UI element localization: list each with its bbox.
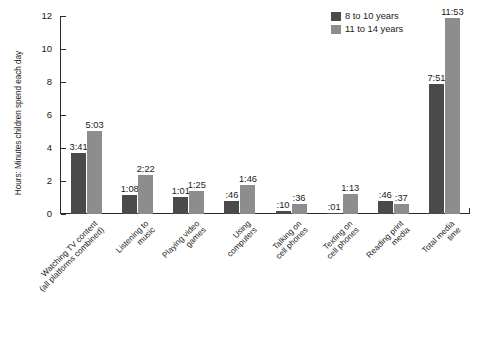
bar[interactable] — [173, 197, 188, 214]
bar[interactable] — [343, 194, 358, 214]
y-axis-tick-label: 2 — [26, 175, 52, 186]
bar[interactable] — [87, 131, 102, 214]
bar-value-label: 5:03 — [78, 120, 112, 130]
y-axis-tick-label: 8 — [26, 76, 52, 87]
bar-value-label: 1:13 — [333, 183, 367, 193]
bar-value-label: 11:53 — [435, 7, 469, 17]
bar[interactable] — [71, 153, 86, 214]
legend-item[interactable]: 8 to 10 years — [331, 10, 403, 22]
y-axis-tick-label: 10 — [26, 43, 52, 54]
y-axis-title: Hours: Minutes children spend each day — [13, 23, 23, 223]
legend-label: 8 to 10 years — [345, 11, 399, 21]
chart-legend: 8 to 10 years11 to 14 years — [331, 10, 403, 36]
legend-swatch-icon — [331, 12, 341, 21]
bar-group: :461:46 — [224, 16, 255, 214]
legend-label: 11 to 14 years — [345, 24, 403, 34]
category-label: Listening tomusic — [59, 219, 157, 317]
bar[interactable] — [122, 195, 137, 214]
bar-value-label: 2:22 — [129, 164, 163, 174]
bar[interactable] — [292, 204, 307, 214]
bar[interactable] — [429, 84, 444, 214]
bar-chart: Hours: Minutes children spend each day 0… — [0, 0, 488, 340]
bar-value-label: :36 — [282, 193, 316, 203]
bar[interactable] — [189, 191, 204, 214]
bar-group: :46:37 — [378, 16, 409, 214]
y-axis-tick-label: 4 — [26, 142, 52, 153]
category-label: Talking oncell phones — [212, 219, 310, 317]
y-axis-tick — [61, 214, 66, 215]
bar[interactable] — [327, 213, 342, 214]
category-label: Texting oncell phones — [263, 219, 361, 317]
bar[interactable] — [224, 201, 239, 214]
bar[interactable] — [138, 175, 153, 214]
bar-group: :10:36 — [276, 16, 307, 214]
bar-group: 1:011:25 — [173, 16, 204, 214]
bar[interactable] — [378, 201, 393, 214]
bar[interactable] — [276, 211, 291, 214]
bar[interactable] — [445, 18, 460, 214]
bar-value-label: :37 — [384, 193, 418, 203]
category-label: Total mediatime — [366, 219, 464, 317]
bar[interactable] — [394, 204, 409, 214]
y-axis-tick-label: 0 — [26, 208, 52, 219]
legend-swatch-icon — [331, 25, 341, 34]
y-axis-tick-label: 6 — [26, 109, 52, 120]
category-label: Reading printmedia — [314, 219, 412, 317]
plot-area: 3:415:031:082:221:011:25:461:46:10:36:01… — [61, 16, 470, 214]
bar-group: 1:082:22 — [122, 16, 153, 214]
category-label: Watching TV content(all platforms combin… — [8, 219, 106, 317]
bar-group: 7:5111:53 — [429, 16, 460, 214]
bar-group: 3:415:03 — [71, 16, 102, 214]
bar[interactable] — [240, 185, 255, 214]
bar-value-label: 1:46 — [231, 174, 265, 184]
bar-group: :011:13 — [327, 16, 358, 214]
category-label: Usingcomputers — [161, 219, 259, 317]
category-label: Playing videogames — [110, 219, 208, 317]
bar-value-label: 1:25 — [180, 180, 214, 190]
y-axis-tick-label: 12 — [26, 10, 52, 21]
legend-item[interactable]: 11 to 14 years — [331, 23, 403, 35]
